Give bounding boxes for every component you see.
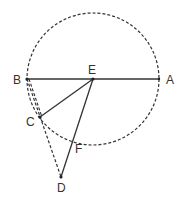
segment-BC-dashed <box>29 79 42 117</box>
point-D <box>59 175 62 178</box>
label-F: F <box>75 142 82 156</box>
label-B: B <box>13 73 21 87</box>
label-C: C <box>26 115 35 129</box>
point-B <box>25 77 28 80</box>
label-D: D <box>57 181 66 195</box>
segment-EC <box>40 79 93 117</box>
point-E <box>91 77 94 80</box>
point-A <box>158 78 160 80</box>
label-E: E <box>88 63 96 77</box>
label-A: A <box>166 73 174 87</box>
point-C <box>38 115 41 118</box>
geometry-diagram: A B C D E F <box>0 0 180 205</box>
segment-ED <box>61 79 93 177</box>
